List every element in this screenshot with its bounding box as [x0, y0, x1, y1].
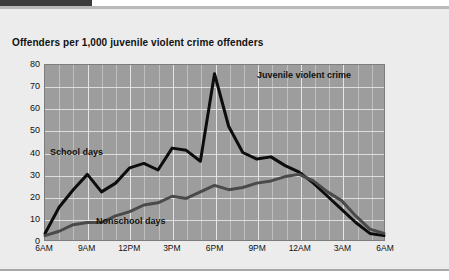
y-axis-tick-label: 20: [2, 192, 40, 202]
page-title: Offenders per 1,000 juvenile violent cri…: [12, 37, 263, 48]
screenshot-root: Offenders per 1,000 juvenile violent cri…: [0, 0, 449, 280]
series-label-school-days: School days: [50, 147, 103, 157]
content-panel: Offenders per 1,000 juvenile violent cri…: [0, 9, 449, 271]
y-axis-tick-label: 70: [2, 81, 40, 91]
y-axis-tick-label: 40: [2, 148, 40, 158]
x-axis-tick-label: 9AM: [78, 243, 95, 253]
x-axis-tick-labels: 6AM9AM12PM3PM6PM9PM12AM3AM6AM: [0, 243, 449, 257]
x-axis-tick-label: 6PM: [206, 243, 223, 253]
y-axis-tick-label: 50: [2, 125, 40, 135]
y-axis-tick-label: 10: [2, 214, 40, 224]
y-axis-tick-label: 30: [2, 170, 40, 180]
y-axis-tick-labels: 01020304050607080: [0, 57, 40, 249]
y-axis-tick-label: 80: [2, 59, 40, 69]
x-axis-tick-label: 12PM: [118, 243, 140, 253]
x-axis-tick-label: 6AM: [376, 243, 393, 253]
x-axis-tick-label: 3AM: [334, 243, 351, 253]
x-axis-tick-label: 3PM: [163, 243, 180, 253]
x-axis-tick-label: 6AM: [35, 243, 52, 253]
x-axis-tick-label: 12AM: [289, 243, 311, 253]
series-label-nonschool-days: Nonschool days: [96, 216, 166, 226]
x-axis-tick-label: 9PM: [248, 243, 265, 253]
chart-annotation-juvenile-violent-crime: Juvenile violent crime: [257, 70, 351, 80]
y-axis-tick-label: 60: [2, 103, 40, 113]
